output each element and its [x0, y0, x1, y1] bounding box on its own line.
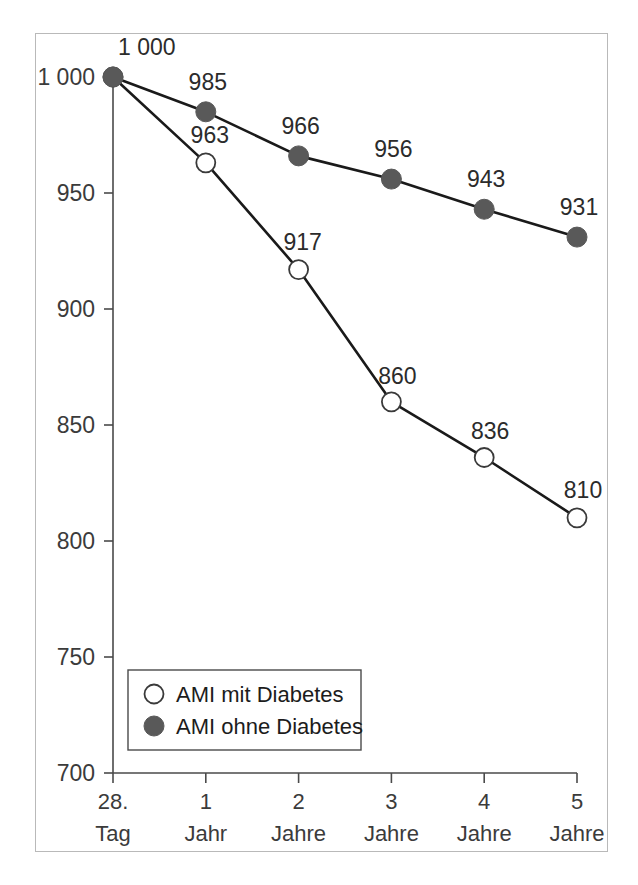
series-line — [113, 77, 577, 518]
x-axis: 28.Tag1Jahr2Jahre3Jahre4Jahre5Jahre — [95, 773, 604, 846]
x-axis-tick-label: 1 — [200, 789, 212, 814]
data-point-marker — [196, 153, 215, 172]
x-axis-tick-label: Jahr — [184, 821, 227, 846]
legend-marker-filled-circle-icon — [144, 716, 164, 736]
data-point-marker — [474, 199, 494, 219]
y-axis-tick-label: 900 — [57, 296, 95, 322]
x-axis-tick-label: Jahre — [271, 821, 326, 846]
data-point-label: 917 — [283, 229, 321, 255]
x-axis-tick-label: 3 — [385, 789, 397, 814]
y-axis-tick-label: 1 000 — [37, 64, 95, 90]
y-axis: 7007508008509009501 000 — [37, 64, 113, 786]
legend-item-label: AMI ohne Diabetes — [176, 714, 363, 739]
data-point-marker — [289, 260, 308, 279]
series-line — [113, 77, 577, 237]
y-axis-tick-label: 800 — [57, 528, 95, 554]
y-axis-tick-label: 700 — [57, 760, 95, 786]
chart-legend: AMI mit DiabetesAMI ohne Diabetes — [128, 670, 363, 750]
y-axis-tick-label: 950 — [57, 180, 95, 206]
x-axis-tick-label: Jahre — [457, 821, 512, 846]
data-point-label: 860 — [378, 363, 416, 389]
chart-figure: 7007508008509009501 000 28.Tag1Jahr2Jahr… — [0, 0, 638, 885]
x-axis-tick-label: Jahre — [364, 821, 419, 846]
data-point-label: 956 — [374, 136, 412, 162]
data-point-label: 963 — [191, 122, 229, 148]
legend-marker-open-circle-icon — [145, 685, 164, 704]
x-axis-tick-label: 4 — [478, 789, 490, 814]
x-axis-tick-label: 5 — [571, 789, 583, 814]
data-point-marker — [289, 146, 309, 166]
data-point-marker — [475, 448, 494, 467]
y-axis-tick-label: 850 — [57, 412, 95, 438]
data-point-label: 836 — [471, 418, 509, 444]
data-point-marker — [382, 392, 401, 411]
legend-item-label: AMI mit Diabetes — [176, 682, 344, 707]
data-point-marker — [381, 169, 401, 189]
x-axis-tick-label: 28. — [98, 789, 129, 814]
data-point-label: 1 000 — [118, 34, 176, 60]
data-point-label: 931 — [560, 194, 598, 220]
data-point-marker — [196, 102, 216, 122]
x-axis-tick-label: 2 — [292, 789, 304, 814]
data-point-marker — [568, 508, 587, 527]
data-point-label: 943 — [467, 166, 505, 192]
data-point-label: 810 — [564, 477, 602, 503]
y-axis-tick-label: 750 — [57, 644, 95, 670]
x-axis-tick-label: Tag — [95, 821, 130, 846]
data-point-marker — [567, 227, 587, 247]
data-point-label: 985 — [189, 69, 227, 95]
x-axis-tick-label: Jahre — [549, 821, 604, 846]
line-chart-canvas: 7007508008509009501 000 28.Tag1Jahr2Jahr… — [0, 0, 638, 885]
data-point-marker — [103, 67, 123, 87]
data-series-group: 1 000963917860836810985966956943931 — [103, 34, 602, 527]
data-point-label: 966 — [281, 113, 319, 139]
